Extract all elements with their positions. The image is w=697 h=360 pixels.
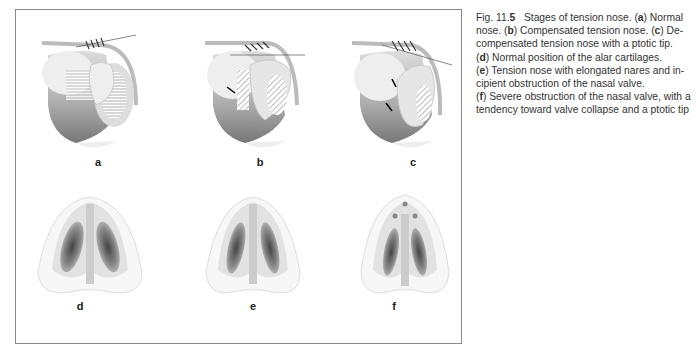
caption-text: ) Compensated tension nose. (	[514, 25, 655, 36]
panel-c-lateral-decompensated	[352, 25, 462, 150]
panel-d-basal-normal	[30, 192, 150, 302]
panel-label-a: a	[88, 156, 108, 168]
nose-basal-illustration	[198, 192, 308, 302]
caption-text: ) Tension nose with elongated nares and …	[485, 65, 684, 76]
caption-line-1: Fig. 11.5 Stages of tension nose. (a) No…	[476, 11, 697, 24]
panel-label-b: b	[250, 156, 270, 168]
caption-line-2: nose. (b) Compensated tension nose. (c) …	[476, 24, 697, 37]
panel-a-lateral-normal	[36, 25, 146, 150]
nose-basal-illustration	[30, 192, 150, 302]
caption-text: ) Normal position of the alar cartilages…	[486, 52, 662, 63]
nose-basal-illustration	[355, 192, 455, 302]
caption-text: ) Normal	[644, 12, 683, 23]
panel-label-e: e	[243, 300, 263, 312]
figure-caption: Fig. 11.5 Stages of tension nose. (a) No…	[476, 11, 697, 117]
panel-f-basal-severe	[355, 192, 455, 302]
nose-lateral-illustration	[36, 25, 146, 150]
caption-text: ) De-	[660, 25, 683, 36]
figure-number-prefix: Fig. 11.	[476, 12, 510, 23]
nose-lateral-illustration	[352, 25, 462, 150]
caption-text: nose. (	[476, 25, 507, 36]
panel-label-d: d	[70, 300, 90, 312]
caption-line-8: tendency toward valve collapse and a pto…	[476, 103, 697, 116]
caption-line-4: (d) Normal position of the alar cartilag…	[476, 51, 697, 64]
figure-number: 5	[510, 12, 516, 23]
caption-text: ) Severe obstruction of the nasal valve,…	[483, 91, 691, 102]
panel-e-basal-tension	[198, 192, 308, 302]
caption-line-7: (f) Severe obstruction of the nasal valv…	[476, 90, 697, 103]
nose-lateral-illustration	[205, 25, 315, 150]
caption-line-6: cipient obstruction of the nasal valve.	[476, 77, 697, 90]
panel-b-lateral-compensated	[205, 25, 315, 150]
panel-label-c: c	[403, 156, 423, 168]
panel-label-f: f	[384, 300, 404, 312]
caption-line-3: compensated tension nose with a ptotic t…	[476, 37, 697, 50]
caption-line-5: (e) Tension nose with elongated nares an…	[476, 64, 697, 77]
caption-title: Stages of tension nose.	[524, 12, 632, 23]
